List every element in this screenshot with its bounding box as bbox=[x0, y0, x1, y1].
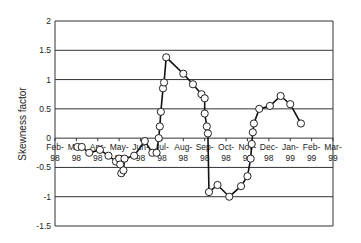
data-point-marker bbox=[256, 105, 263, 112]
gridlines bbox=[55, 21, 333, 226]
data-point-marker bbox=[156, 123, 163, 130]
data-point-marker bbox=[287, 101, 294, 108]
x-tick-label-bottom: 99 bbox=[328, 153, 338, 163]
skewness-chart: 21.510.50-0.5-1-1.5 Feb-98Mar-98Apr-98Ma… bbox=[0, 0, 361, 243]
x-tick-label-bottom: 98 bbox=[93, 153, 103, 163]
data-point-marker bbox=[277, 92, 284, 99]
data-point-marker bbox=[205, 188, 212, 195]
data-point-marker bbox=[120, 167, 127, 174]
x-tick-label-top: Feb- bbox=[46, 142, 64, 152]
data-point-marker bbox=[203, 123, 210, 130]
data-point-marker bbox=[96, 146, 103, 153]
data-point-marker bbox=[297, 120, 304, 127]
data-point-marker bbox=[153, 149, 160, 156]
data-point-marker bbox=[163, 54, 170, 61]
data-point-marker bbox=[155, 135, 162, 142]
series-line bbox=[74, 54, 305, 201]
data-point-marker bbox=[180, 70, 187, 77]
x-tick-label-bottom: 98 bbox=[50, 153, 60, 163]
x-tick-label-top: Feb- bbox=[303, 142, 321, 152]
data-point-marker bbox=[226, 193, 233, 200]
x-tick-label-bottom: 99 bbox=[285, 153, 295, 163]
data-point-marker bbox=[266, 102, 273, 109]
data-point-marker bbox=[157, 108, 164, 115]
x-tick-label-top: Mar- bbox=[324, 142, 342, 152]
x-tick-label-bottom: 98 bbox=[179, 153, 189, 163]
x-tick-label-top: Jan- bbox=[282, 142, 299, 152]
data-point-marker bbox=[160, 79, 167, 86]
series-path bbox=[77, 57, 300, 196]
x-tick-label-top: Sep- bbox=[196, 142, 214, 152]
data-point-marker bbox=[250, 120, 257, 127]
x-tick-label-bottom: 98 bbox=[221, 153, 231, 163]
y-tick-label: -0.5 bbox=[36, 162, 51, 172]
data-point-marker bbox=[247, 155, 254, 162]
y-tick-label: -1.5 bbox=[36, 221, 51, 231]
y-axis-label: Skewness factor bbox=[17, 87, 28, 161]
data-point-marker bbox=[131, 152, 138, 159]
y-tick-label: 1 bbox=[46, 75, 51, 85]
x-tick-label-bottom: 99 bbox=[307, 153, 317, 163]
y-tick-label: 2 bbox=[46, 16, 51, 26]
y-tick-label: -1 bbox=[43, 192, 51, 202]
x-tick-label-top: Oct- bbox=[218, 142, 234, 152]
data-point-marker bbox=[204, 130, 211, 137]
data-point-marker bbox=[189, 81, 196, 88]
data-point-marker bbox=[248, 140, 255, 147]
data-point-marker bbox=[78, 143, 85, 150]
y-tick-label: 0.5 bbox=[39, 104, 51, 114]
y-tick-label: 1.5 bbox=[39, 45, 51, 55]
data-point-marker bbox=[201, 110, 208, 117]
data-point-marker bbox=[141, 137, 148, 144]
x-tick-label-bottom: 98 bbox=[72, 153, 82, 163]
x-tick-label-top: Aug- bbox=[174, 142, 192, 152]
x-tick-label-top: May- bbox=[110, 142, 129, 152]
x-tick-label-top: Dec- bbox=[260, 142, 278, 152]
data-point-marker bbox=[237, 183, 244, 190]
data-point-marker bbox=[86, 149, 93, 156]
x-tick-label-bottom: 98 bbox=[264, 153, 274, 163]
y-axis-ticks: 21.510.50-0.5-1-1.5 bbox=[36, 16, 51, 231]
data-point-marker bbox=[201, 95, 208, 102]
data-point-marker bbox=[249, 129, 256, 136]
data-point-marker bbox=[244, 173, 251, 180]
data-point-marker bbox=[214, 181, 221, 188]
data-point-marker bbox=[105, 152, 112, 159]
data-point-marker bbox=[121, 155, 128, 162]
